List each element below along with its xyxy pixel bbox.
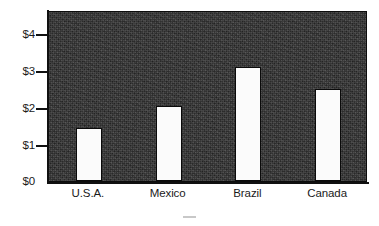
y-axis-labels: $4 $3 $2 $1 $0 [0,0,35,226]
x-axis-labels: U.S.A.MexicoBrazilCanada [48,186,367,206]
x-axis-line [47,182,369,184]
x-axis-tick-label-2: Brazil [208,186,288,200]
bar-u-s-a [76,128,102,181]
bar-chart-figure: $4 $3 $2 $1 $0 U.S.A.MexicoBrazilCanada [0,0,379,226]
plot-area [48,11,367,182]
bar-mexico [156,106,182,181]
x-axis-tick-label-3: Canada [287,186,367,200]
y-axis-tick-label-2: $2 [1,103,35,114]
y-axis-tick-label-4: $4 [1,29,35,40]
y-axis-tick-label-0: $0 [1,176,35,187]
page-artifact-mark [183,216,196,218]
bars-layer [49,12,366,181]
bar-canada [315,89,341,181]
x-axis-tick-label-1: Mexico [128,186,208,200]
y-axis-tick-label-3: $3 [1,66,35,77]
x-axis-tick-label-0: U.S.A. [48,186,128,200]
y-axis-tick-label-1: $1 [1,140,35,151]
y-axis-line [47,10,49,184]
bar-brazil [235,67,261,181]
